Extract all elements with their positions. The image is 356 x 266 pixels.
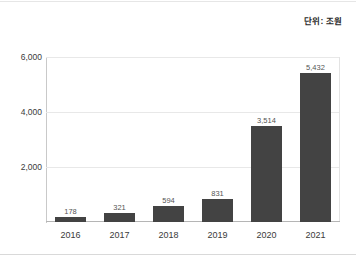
bar-rect[interactable] [55, 217, 86, 222]
bar-value-label: 831 [211, 190, 224, 198]
bar-value-label: 178 [64, 208, 77, 216]
bar-item-2019[interactable]: 831 [193, 57, 242, 222]
bar-value-label: 3,514 [257, 117, 276, 125]
x-tick-label-2016: 2016 [46, 230, 95, 240]
chart-figure: 단위: 조원 6,000 4,000 2,000 178 321 594 [0, 0, 356, 266]
y-tick-label-4000: 4,000 [2, 107, 42, 117]
bar-value-label: 594 [162, 197, 175, 205]
y-tick-label-6000: 6,000 [2, 52, 42, 62]
bar-rect[interactable] [153, 206, 184, 222]
x-tick-label-2020: 2020 [242, 230, 291, 240]
bar-item-2018[interactable]: 594 [144, 57, 193, 222]
top-divider [0, 1, 356, 2]
bar-rect[interactable] [251, 126, 282, 222]
bar-item-2021[interactable]: 5,432 [291, 57, 340, 222]
bar-rect[interactable] [104, 213, 135, 222]
bar-value-label: 321 [113, 204, 126, 212]
bar-item-2017[interactable]: 321 [95, 57, 144, 222]
bar-rect[interactable] [202, 199, 233, 222]
plot-area: 178 321 594 831 3,514 5,432 [46, 57, 340, 222]
y-axis-tick-labels: 6,000 4,000 2,000 [0, 0, 42, 266]
bottom-divider [0, 254, 356, 255]
x-tick-label-2019: 2019 [193, 230, 242, 240]
x-axis-tick-labels: 2016 2017 2018 2019 2020 2021 [46, 230, 340, 246]
bar-group: 178 321 594 831 3,514 5,432 [46, 57, 340, 222]
x-tick-label-2021: 2021 [291, 230, 340, 240]
bar-item-2016[interactable]: 178 [46, 57, 95, 222]
unit-caption: 단위: 조원 [304, 14, 342, 26]
x-tick-label-2018: 2018 [144, 230, 193, 240]
y-tick-label-2000: 2,000 [2, 162, 42, 172]
bar-item-2020[interactable]: 3,514 [242, 57, 291, 222]
bar-value-label: 5,432 [306, 64, 325, 72]
bar-rect[interactable] [300, 73, 331, 222]
x-tick-label-2017: 2017 [95, 230, 144, 240]
